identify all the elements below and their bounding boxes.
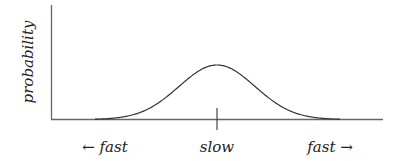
x-label-right-fast: fast → (306, 138, 353, 156)
x-label-left-fast: ← fast (82, 138, 129, 156)
bell-curve-diagram: probability ← fast slow fast → (0, 0, 402, 161)
y-axis-label: probability (19, 20, 37, 103)
x-label-slow: slow (200, 138, 235, 156)
